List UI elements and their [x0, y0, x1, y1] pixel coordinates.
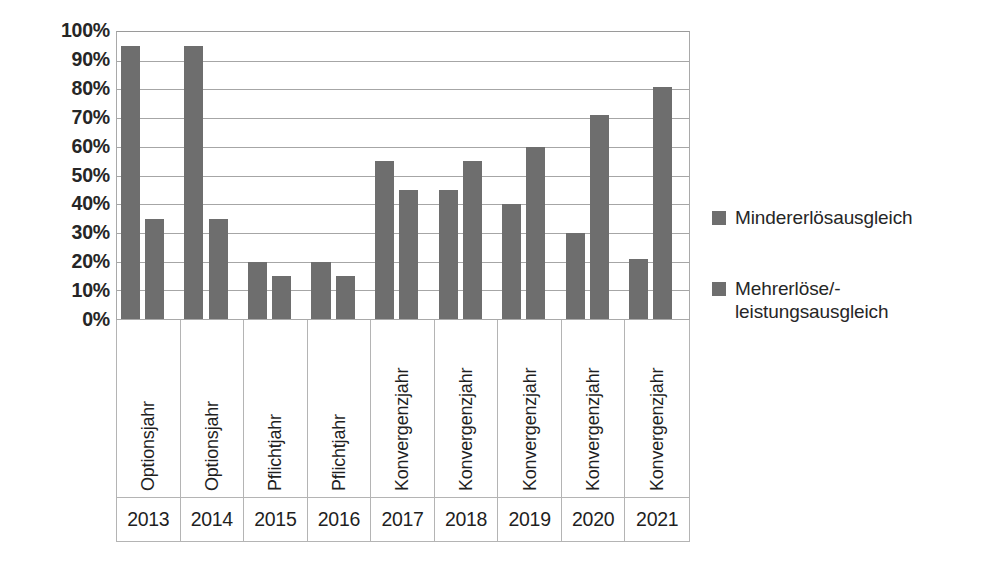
- legend-swatch-icon: [712, 282, 726, 296]
- plot-area: [116, 31, 690, 320]
- bar-group: [117, 32, 181, 319]
- year-label: 2020: [562, 498, 626, 541]
- bar[interactable]: [209, 219, 228, 319]
- bar-group: [308, 32, 372, 319]
- year-labels-band: 201320142015201620172018201920202021: [116, 498, 690, 542]
- category-label: Konvergenzjahr: [392, 368, 413, 491]
- bar[interactable]: [629, 259, 648, 319]
- bar[interactable]: [566, 233, 585, 319]
- y-axis-tick-label: 80%: [18, 79, 110, 99]
- category-label: Pflichtjahr: [265, 414, 286, 491]
- y-axis-tick-label: 100%: [18, 21, 110, 41]
- chart-legend: MindererlösausgleichMehrerlöse/- leistun…: [712, 206, 998, 372]
- bar[interactable]: [526, 147, 545, 319]
- bar-chart: 100%90%80%70%60%50%40%30%20%10%0% Option…: [0, 0, 1004, 573]
- y-axis-tick-label: 50%: [18, 166, 110, 186]
- y-axis-tick-label: 20%: [18, 252, 110, 272]
- y-axis-tick-label: 40%: [18, 195, 110, 215]
- category-cell: Konvergenzjahr: [498, 320, 562, 497]
- category-labels-band: OptionsjahrOptionsjahrPflichtjahrPflicht…: [116, 320, 690, 498]
- legend-label: Mehrerlöse/- leistungsausgleich: [735, 277, 888, 323]
- category-label: Optionsjahr: [138, 401, 159, 491]
- bar[interactable]: [399, 190, 418, 319]
- category-cell: Optionsjahr: [181, 320, 245, 497]
- year-label: 2021: [625, 498, 689, 541]
- year-label: 2014: [181, 498, 245, 541]
- category-label: Konvergenzjahr: [647, 368, 668, 491]
- category-cell: Konvergenzjahr: [562, 320, 626, 497]
- category-cell: Pflichtjahr: [308, 320, 372, 497]
- year-label: 2017: [371, 498, 435, 541]
- legend-item[interactable]: Mehrerlöse/- leistungsausgleich: [712, 277, 998, 323]
- category-label: Optionsjahr: [201, 401, 222, 491]
- bar[interactable]: [121, 46, 140, 319]
- bar[interactable]: [248, 262, 267, 319]
- bar-group: [181, 32, 245, 319]
- category-cell: Konvergenzjahr: [435, 320, 499, 497]
- category-cell: Pflichtjahr: [244, 320, 308, 497]
- bar-group: [435, 32, 499, 319]
- category-label: Konvergenzjahr: [519, 368, 540, 491]
- bar[interactable]: [311, 262, 330, 319]
- bar[interactable]: [463, 161, 482, 319]
- year-label: 2013: [117, 498, 181, 541]
- bar-group: [625, 32, 689, 319]
- legend-item[interactable]: Mindererlösausgleich: [712, 206, 998, 229]
- bar[interactable]: [590, 115, 609, 319]
- y-axis-tick-label: 30%: [18, 224, 110, 244]
- bar-group: [498, 32, 562, 319]
- y-axis: 100%90%80%70%60%50%40%30%20%10%0%: [18, 31, 110, 320]
- y-axis-tick-label: 90%: [18, 50, 110, 70]
- year-label: 2015: [244, 498, 308, 541]
- category-label: Pflichtjahr: [328, 414, 349, 491]
- category-cell: Optionsjahr: [117, 320, 181, 497]
- category-cell: Konvergenzjahr: [371, 320, 435, 497]
- bar[interactable]: [653, 87, 672, 319]
- bar-group: [244, 32, 308, 319]
- legend-swatch-icon: [712, 211, 726, 225]
- bar-group: [371, 32, 435, 319]
- y-axis-tick-label: 60%: [18, 137, 110, 157]
- y-axis-tick-label: 0%: [18, 310, 110, 330]
- bar-group: [562, 32, 626, 319]
- year-label: 2018: [435, 498, 499, 541]
- year-label: 2019: [498, 498, 562, 541]
- y-axis-tick-label: 70%: [18, 108, 110, 128]
- category-label: Konvergenzjahr: [583, 368, 604, 491]
- y-axis-tick-label: 10%: [18, 281, 110, 301]
- legend-label: Mindererlösausgleich: [735, 206, 913, 229]
- bar[interactable]: [272, 276, 291, 319]
- year-label: 2016: [308, 498, 372, 541]
- bar[interactable]: [439, 190, 458, 319]
- bar[interactable]: [336, 276, 355, 319]
- bars-layer: [117, 32, 689, 319]
- bar[interactable]: [502, 204, 521, 319]
- bar[interactable]: [375, 161, 394, 319]
- category-cell: Konvergenzjahr: [625, 320, 689, 497]
- bar[interactable]: [145, 219, 164, 319]
- category-label: Konvergenzjahr: [456, 368, 477, 491]
- bar[interactable]: [184, 46, 203, 319]
